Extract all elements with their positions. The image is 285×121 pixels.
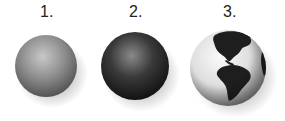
spheres-illustration [0, 0, 285, 121]
sphere-2 [101, 32, 169, 100]
sphere-1 [15, 35, 77, 97]
globe-shading [190, 30, 266, 106]
